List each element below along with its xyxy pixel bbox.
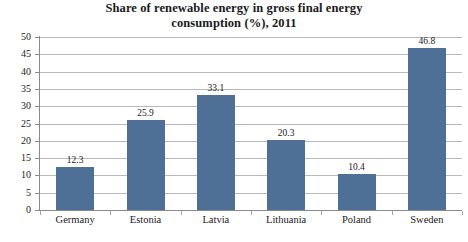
bar	[56, 167, 94, 210]
y-axis-tick-mark	[35, 106, 39, 107]
bar-value-label: 25.9	[121, 108, 171, 118]
gridline	[40, 193, 462, 194]
bar-chart: Share of renewable energy in gross final…	[0, 0, 468, 242]
y-axis-tick-label: 0	[0, 205, 31, 215]
x-axis-category-tick	[392, 211, 393, 215]
y-axis-tick-label: 30	[0, 101, 31, 111]
bar-value-label: 10.4	[332, 162, 382, 172]
x-axis-tick-label: Sweden	[382, 214, 468, 226]
gridline	[40, 175, 462, 176]
chart-title-line-2: consumption (%), 2011	[0, 16, 468, 31]
x-axis-category-tick	[321, 211, 322, 215]
bar-value-label: 33.1	[191, 83, 241, 93]
x-axis-category-tick	[181, 211, 182, 215]
y-axis-tick-label: 20	[0, 136, 31, 146]
gridline	[40, 37, 462, 38]
y-axis-tick-mark	[35, 72, 39, 73]
plot-area	[40, 37, 462, 210]
gridline	[40, 106, 462, 107]
y-axis-tick-mark	[35, 124, 39, 125]
y-axis-tick-label: 5	[0, 188, 31, 198]
y-axis-tick-mark	[35, 193, 39, 194]
bar	[408, 48, 446, 210]
y-axis-tick-mark	[35, 89, 39, 90]
bar-value-label: 46.8	[402, 36, 452, 46]
bar	[127, 120, 165, 210]
y-axis-tick-label: 35	[0, 84, 31, 94]
chart-title: Share of renewable energy in gross final…	[0, 1, 468, 31]
bar	[197, 95, 235, 210]
gridline	[40, 158, 462, 159]
gridline	[40, 141, 462, 142]
x-axis-category-tick	[251, 211, 252, 215]
chart-title-line-1: Share of renewable energy in gross final…	[105, 1, 362, 15]
y-axis-tick-label: 45	[0, 49, 31, 59]
y-axis-tick-label: 50	[0, 32, 31, 42]
gridline	[40, 124, 462, 125]
y-axis-tick-mark	[35, 54, 39, 55]
x-axis-category-tick	[462, 211, 463, 215]
x-axis-category-tick	[110, 211, 111, 215]
gridline	[40, 89, 462, 90]
y-axis-tick-mark	[35, 37, 39, 38]
y-axis-tick-mark	[35, 210, 39, 211]
gridline	[40, 72, 462, 73]
y-axis-tick-mark	[35, 175, 39, 176]
x-axis-category-tick	[40, 211, 41, 215]
y-axis-tick-mark	[35, 141, 39, 142]
y-axis-tick-label: 40	[0, 67, 31, 77]
bar-value-label: 12.3	[50, 155, 100, 165]
gridline	[40, 54, 462, 55]
y-axis-tick-mark	[35, 158, 39, 159]
bar	[338, 174, 376, 210]
bar-value-label: 20.3	[261, 128, 311, 138]
y-axis-tick-label: 10	[0, 170, 31, 180]
y-axis-tick-label: 25	[0, 119, 31, 129]
bar	[267, 140, 305, 210]
y-axis-tick-label: 15	[0, 153, 31, 163]
